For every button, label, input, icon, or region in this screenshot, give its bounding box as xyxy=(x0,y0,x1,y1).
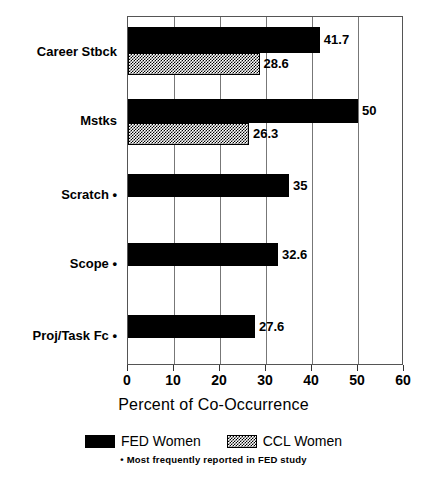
x-tick-mark xyxy=(265,365,266,371)
x-tick-label: 20 xyxy=(199,373,239,387)
x-tick-mark xyxy=(357,365,358,371)
x-tick-label: 0 xyxy=(107,373,147,387)
legend-swatch-ccl-icon xyxy=(227,435,257,448)
x-tick-label: 50 xyxy=(337,373,377,387)
bar-fed xyxy=(128,315,255,338)
x-tick-label: 60 xyxy=(383,373,423,387)
category-label: Proj/Task Fc • xyxy=(0,329,117,342)
bar-fed xyxy=(128,243,278,266)
x-tick-mark xyxy=(403,365,404,371)
bar-value-label: 26.3 xyxy=(253,127,278,140)
bar-fed xyxy=(128,99,358,123)
legend-entry-ccl: CCL Women xyxy=(227,434,342,448)
bar-value-label: 50 xyxy=(362,104,376,117)
legend-footnote: • Most frequently reported in FED study xyxy=(0,455,427,465)
x-tick-mark xyxy=(173,365,174,371)
bar-value-label: 32.6 xyxy=(282,248,307,261)
bar-ccl xyxy=(128,123,249,145)
bar-fed xyxy=(128,27,320,53)
bar-value-label: 35 xyxy=(293,179,307,192)
gridline xyxy=(358,17,359,364)
x-tick-label: 40 xyxy=(291,373,331,387)
bar-ccl xyxy=(128,53,260,75)
x-tick-mark xyxy=(219,365,220,371)
x-tick-label: 30 xyxy=(245,373,285,387)
gridline xyxy=(312,17,313,364)
category-label: Mstks xyxy=(0,114,117,127)
legend-label-ccl: CCL Women xyxy=(263,434,342,448)
category-label: Scratch • xyxy=(0,188,117,201)
x-tick-mark xyxy=(127,365,128,371)
x-tick-label: 10 xyxy=(153,373,193,387)
bar-value-label: 27.6 xyxy=(259,320,284,333)
category-label: Scope • xyxy=(0,257,117,270)
category-label: Career Stbck xyxy=(0,45,117,58)
legend-label-fed: FED Women xyxy=(121,434,201,448)
legend-entry-fed: FED Women xyxy=(85,434,201,448)
x-axis-title: Percent of Co-Occurrence xyxy=(0,397,427,413)
bar-fed xyxy=(128,174,289,197)
bar-chart-figure: 41.728.65026.33532.627.6 Career StbckMst… xyxy=(0,0,427,480)
legend-swatch-fed-icon xyxy=(85,435,115,448)
x-tick-mark xyxy=(311,365,312,371)
bar-value-label: 41.7 xyxy=(324,33,349,46)
chart-legend: FED Women CCL Women xyxy=(0,434,427,448)
bar-value-label: 28.6 xyxy=(264,57,289,70)
